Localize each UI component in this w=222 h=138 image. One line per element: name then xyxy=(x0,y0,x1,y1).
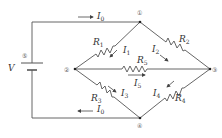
i2-arrow-icon xyxy=(160,55,168,61)
i4-label: I4 xyxy=(152,88,161,99)
r5-label: R5 xyxy=(136,55,148,66)
i0-top-label: I0 xyxy=(96,11,105,22)
r4-label: R4 xyxy=(174,93,186,104)
node-4-dot xyxy=(139,117,142,120)
i2-label: I2 xyxy=(151,44,160,55)
circuit-diagram: V ⑤ ① ② ③ ④ R1 R2 R3 R4 R5 I0 I0 I1 I2 I… xyxy=(0,0,222,138)
r3-label: R3 xyxy=(90,93,102,104)
r1-label: R1 xyxy=(92,37,104,48)
top-wire xyxy=(32,22,140,63)
node-1-dot xyxy=(139,21,142,24)
node-1-label: ① xyxy=(137,9,142,16)
i3-label: I3 xyxy=(120,88,129,99)
node-3-label: ③ xyxy=(212,66,217,73)
i5-label: I5 xyxy=(133,78,142,89)
i0-bottom-label: I0 xyxy=(96,104,105,115)
node-5-label: ⑤ xyxy=(22,52,27,59)
node-4-label: ④ xyxy=(137,122,142,129)
i4-arrow-icon xyxy=(167,81,174,87)
node-3-dot xyxy=(209,68,212,71)
resistor-r2 xyxy=(140,22,210,69)
r2-label: R2 xyxy=(178,34,190,45)
voltage-label: V xyxy=(8,63,16,73)
resistor-r1 xyxy=(75,22,140,69)
battery-icon xyxy=(21,63,43,70)
resistor-r5 xyxy=(75,66,210,72)
node-2-label: ② xyxy=(64,66,69,73)
i1-label: I1 xyxy=(122,45,130,56)
node-2-dot xyxy=(74,68,77,71)
